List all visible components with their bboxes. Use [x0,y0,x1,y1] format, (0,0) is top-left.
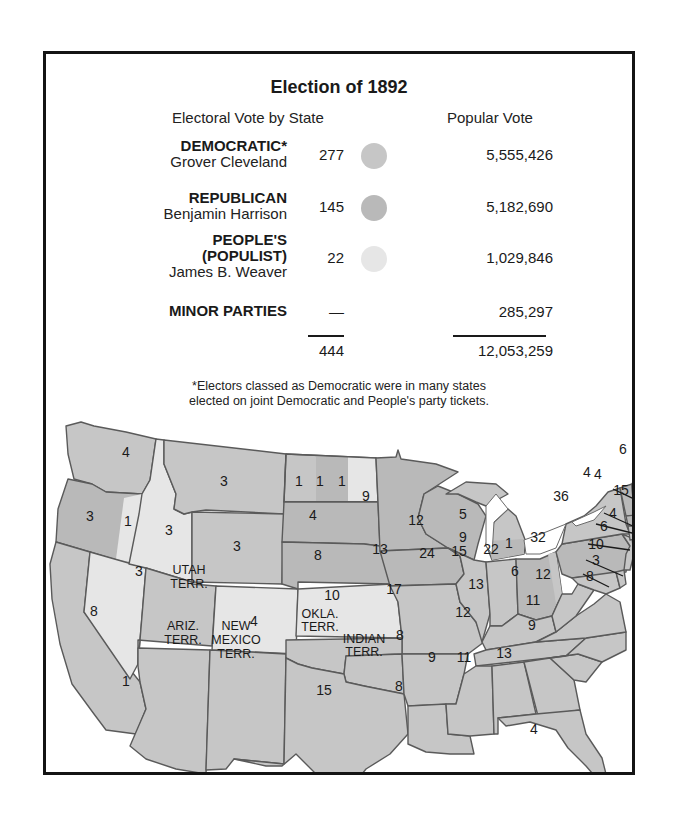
label-illinois: 24 [419,545,435,561]
label-louisiana: 8 [395,678,403,694]
territory-new-mexico [206,650,286,770]
label-arizona-1: ARIZ. [167,619,199,633]
label-nd-3: 1 [338,473,346,489]
label-pennsylvania: 32 [530,529,546,545]
label-new-hampshire: 4 [594,466,602,482]
label-kentucky: 13 [468,576,484,592]
label-indiana: 15 [451,543,467,559]
label-nd-1: 1 [295,473,303,489]
label-florida: 4 [530,721,538,737]
label-oregon-rep: 3 [86,508,94,524]
label-new-mexico-3: TERR. [217,647,255,661]
state-florida [498,710,606,772]
label-washington: 4 [122,444,130,460]
label-utah-2: TERR. [170,577,208,591]
label-virginia: 12 [535,566,551,582]
label-vermont: 4 [583,464,591,480]
label-ohio-rep: 22 [483,541,499,557]
label-utah-1: UTAH [172,563,205,577]
label-south-dakota: 4 [309,507,317,523]
label-oregon-pop: 1 [124,513,132,529]
label-minnesota: 9 [362,488,370,504]
state-south-dakota [282,502,380,546]
label-new-york: 36 [553,488,569,504]
label-california-rep: 1 [122,673,130,689]
label-north-carolina: 11 [526,592,541,608]
label-mississippi: 9 [428,649,436,665]
label-montana: 3 [220,473,228,489]
election-1892-panel: Election of 1892 Electoral Vote by State… [43,51,635,775]
label-new-mexico-1: NEW [221,619,250,633]
label-nebraska: 8 [314,547,322,563]
us-electoral-map: 4 3 1 8 1 3 3 3 3 4 1 1 1 4 8 10 9 13 17… [46,54,632,772]
label-wisconsin: 12 [408,512,424,528]
label-west-virginia: 6 [511,563,519,579]
label-michigan-dem: 5 [459,506,467,522]
label-texas: 15 [316,682,332,698]
label-oklahoma-2: TERR. [301,620,339,634]
label-nevada: 3 [135,563,143,579]
label-kansas: 10 [324,587,340,603]
label-idaho: 3 [165,522,173,538]
label-arizona-2: TERR. [164,633,202,647]
label-arkansas: 8 [396,627,404,643]
label-new-mexico-2: MEXICO [211,633,261,647]
label-ohio-dem: 1 [505,535,513,551]
label-alabama: 11 [457,649,472,665]
label-maine: 6 [619,441,627,457]
label-nd-2: 1 [316,473,324,489]
label-california-dem: 8 [90,603,98,619]
label-wyoming: 3 [233,538,241,554]
label-indian-2: TERR. [345,645,383,659]
label-colorado: 4 [250,613,258,629]
label-oklahoma-1: OKLA. [302,607,339,621]
label-south-carolina: 9 [528,617,536,633]
label-iowa: 13 [372,541,388,557]
label-missouri: 17 [386,581,402,597]
label-georgia: 13 [496,645,512,661]
label-tennessee: 12 [455,604,471,620]
label-indian-1: INDIAN [343,632,385,646]
